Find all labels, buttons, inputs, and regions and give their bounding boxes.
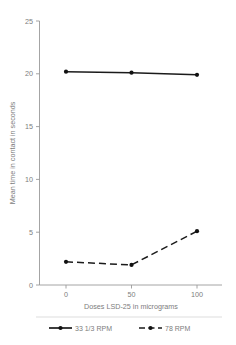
legend-label-33-1-3-rpm: 33 1/3 RPM (75, 325, 112, 332)
x-tick-label-100: 100 (191, 290, 203, 299)
series-78-rpm (64, 229, 199, 267)
x-axis-title: Doses LSD-25 in micrograms (84, 302, 178, 311)
data-point (64, 260, 68, 264)
data-point (195, 229, 199, 233)
legend-marker (58, 326, 62, 330)
data-point (129, 263, 133, 267)
y-tick-label-25: 25 (25, 17, 33, 26)
series-78-rpm-line (66, 231, 197, 265)
x-tick-label-50: 50 (128, 290, 136, 299)
y-axis-title: Mean time in contact in seconds (8, 101, 17, 204)
data-point (129, 71, 133, 75)
y-tick-label-20: 20 (25, 69, 33, 78)
plot-area: 25 20 15 10 5 0 Mean time in contact in … (0, 0, 236, 345)
chart-svg: 25 20 15 10 5 0 Mean time in contact in … (0, 0, 236, 345)
y-tick-label-5: 5 (29, 228, 33, 237)
y-tick-label-15: 15 (25, 122, 33, 131)
legend-label-78-rpm: 78 RPM (165, 325, 190, 332)
chart-legend: 33 1/3 RPM 78 RPM (36, 317, 222, 332)
y-tick-label-10: 10 (25, 175, 33, 184)
chart-figure: 25 20 15 10 5 0 Mean time in contact in … (0, 0, 236, 345)
x-axis: 0 50 100 Doses LSD-25 in micrograms (40, 285, 223, 311)
legend-item-33-1-3-rpm[interactable]: 33 1/3 RPM (49, 325, 112, 332)
y-tick-label-0: 0 (29, 281, 33, 290)
legend-item-78-rpm[interactable]: 78 RPM (139, 325, 190, 332)
x-tick-label-0: 0 (64, 290, 68, 299)
data-point (195, 73, 199, 77)
legend-marker (148, 326, 152, 330)
data-point (64, 70, 68, 74)
y-axis: 25 20 15 10 5 0 Mean time in contact in … (8, 17, 40, 290)
series-33-1-3-rpm (64, 70, 199, 77)
